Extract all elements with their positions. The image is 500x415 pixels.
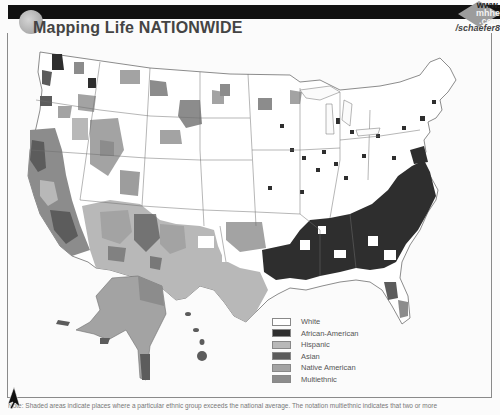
footnote: Note: Shaded areas indicate places where… [8,402,498,410]
alaska [56,276,166,380]
legend-label: Multiethnic [301,375,337,384]
legend-swatch-african-american [272,329,291,337]
legend-swatch-white [272,318,291,326]
legend-label: Hispanic [301,340,330,349]
legend-swatch-hispanic [272,341,291,349]
mouse-cursor-icon [7,387,21,409]
legend-item-white: White [272,316,392,327]
legend-label: African-American [301,329,359,338]
legend-item-native-american: Native American [272,362,392,373]
legend-item-asian: Asian [272,351,392,362]
map-legend: White African-American Hispanic Asian Na… [272,316,392,385]
legend-label: Asian [301,352,320,361]
legend-item-multiethnic: Multiethnic [272,374,392,385]
legend-item-hispanic: Hispanic [272,339,392,350]
legend-label: White [301,317,320,326]
legend-swatch-multiethnic [272,375,291,383]
hawaii [185,312,207,361]
legend-item-african-american: African-American [272,328,392,339]
us-ethnicity-map [0,0,500,400]
legend-swatch-native-american [272,364,291,372]
legend-swatch-asian [272,352,291,360]
legend-label: Native American [301,363,356,372]
